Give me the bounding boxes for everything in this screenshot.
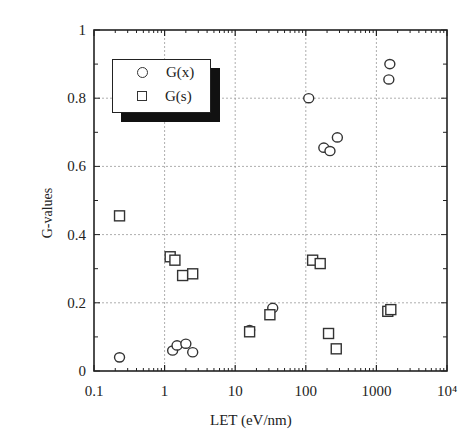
svg-text:0.6: 0.6 [67, 158, 86, 174]
circle-point [332, 133, 342, 142]
svg-text:0: 0 [79, 363, 87, 379]
square-point [324, 328, 334, 338]
square-marker-icon [137, 91, 147, 101]
x-axis-label: LET (eV/nm) [210, 412, 292, 429]
circle-marker-icon [137, 67, 148, 78]
svg-text:100: 100 [295, 383, 318, 399]
circle-point [181, 339, 191, 348]
svg-text:1: 1 [79, 22, 87, 38]
y-axis-label: G-values [40, 173, 56, 253]
square-point [331, 344, 341, 354]
square-point [178, 271, 188, 281]
circle-point [384, 75, 394, 84]
legend-item-gs: G(s) [113, 84, 210, 108]
svg-text:1000: 1000 [361, 383, 391, 399]
svg-text:1: 1 [161, 383, 169, 399]
square-point [315, 259, 325, 269]
square-point [386, 305, 396, 315]
legend-label: G(x) [166, 64, 194, 81]
legend: G(x) G(s) [112, 59, 211, 113]
svg-text:0.8: 0.8 [67, 90, 86, 106]
y-tick-labels: 00.20.40.60.81 [67, 22, 86, 379]
circle-point [188, 348, 198, 357]
square-point [115, 211, 125, 221]
legend-item-gx: G(x) [113, 60, 210, 84]
square-point [170, 255, 180, 265]
svg-text:10⁴: 10⁴ [437, 383, 457, 399]
circle-point [304, 94, 314, 103]
circle-point [385, 60, 395, 69]
svg-text:0.4: 0.4 [67, 227, 86, 243]
svg-text:0.1: 0.1 [85, 383, 104, 399]
x-tick-labels: 0.1110100100010⁴ [85, 383, 457, 399]
scatter-plot: 0.1110100100010⁴ 00.20.40.60.81 [0, 0, 471, 441]
square-point [188, 269, 198, 279]
svg-text:0.2: 0.2 [67, 295, 86, 311]
legend-label: G(s) [165, 88, 192, 105]
circle-point [115, 353, 125, 362]
square-point [245, 327, 255, 337]
square-point [265, 310, 275, 320]
svg-text:10: 10 [228, 383, 243, 399]
circle-point [325, 146, 335, 155]
